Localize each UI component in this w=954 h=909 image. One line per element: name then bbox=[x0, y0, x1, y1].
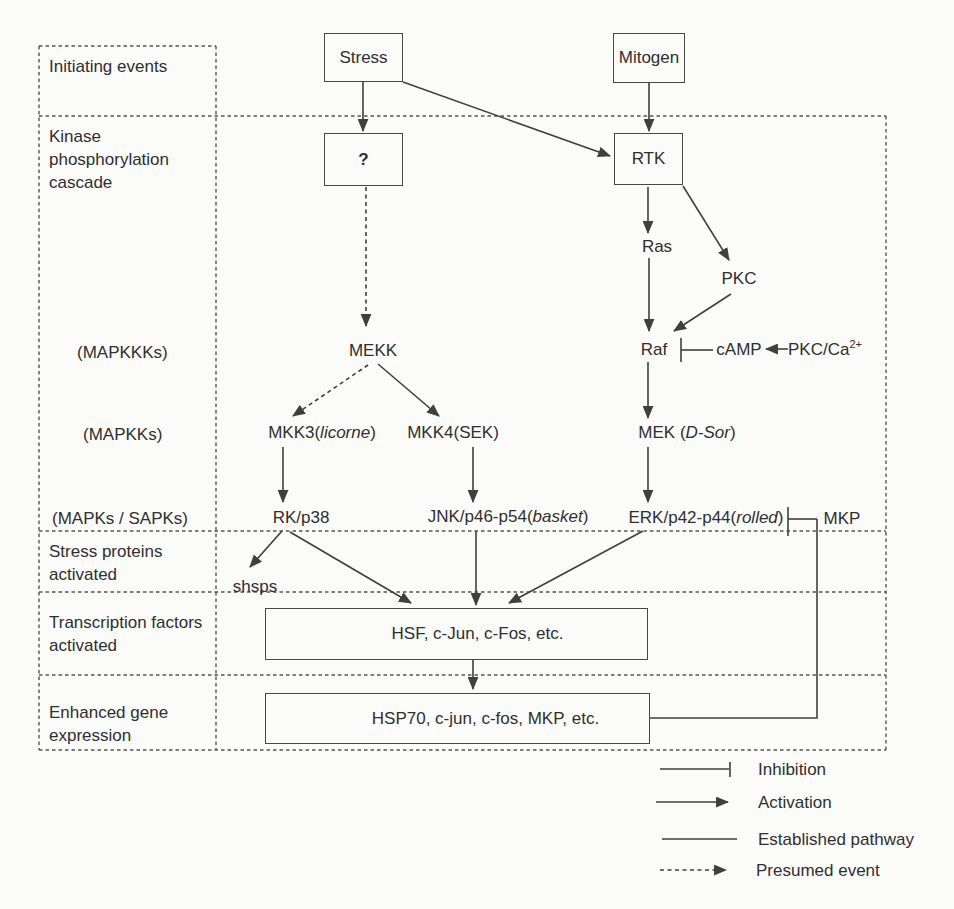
node-pkc-ca: PKC/Ca2+ bbox=[788, 338, 862, 361]
node-mkk4: MKK4(SEK) bbox=[407, 423, 499, 442]
presumed-arrows bbox=[293, 187, 368, 416]
arrow-mekk-to-mkk4 bbox=[378, 364, 439, 416]
row-label-kinase-cascade: Kinase phosphorylation cascade bbox=[49, 125, 199, 194]
mitogen-box: Mitogen bbox=[613, 33, 685, 83]
mek-suffix: ) bbox=[730, 423, 736, 442]
stress-label: Stress bbox=[339, 48, 387, 68]
node-rk-p38: RK/p38 bbox=[273, 508, 330, 527]
jnk-gene-italic: basket bbox=[533, 507, 583, 526]
row-label-mapkks: (MAPKKs) bbox=[83, 423, 162, 446]
arrow-rk-to-shsps bbox=[250, 531, 282, 567]
pkc-ca-base: PKC/Ca bbox=[788, 340, 849, 359]
inhibition-lines bbox=[649, 338, 817, 718]
node-ras: Ras bbox=[642, 237, 672, 256]
mkk3-gene-italic: licorne bbox=[320, 423, 370, 442]
mek-prefix: MEK ( bbox=[638, 423, 685, 442]
hsp70-box-label: HSP70, c-jun, c-fos, MKP, etc. bbox=[372, 709, 599, 729]
mitogen-label: Mitogen bbox=[619, 48, 679, 68]
node-mekk: MEKK bbox=[349, 341, 397, 360]
legend-label-activation: Activation bbox=[758, 793, 832, 813]
pkc-ca-superscript: 2+ bbox=[849, 338, 862, 350]
erk-gene-italic: rolled bbox=[736, 508, 778, 527]
arrow-pkc-to-raf bbox=[674, 294, 731, 331]
node-erk: ERK/p42-p44(rolled) bbox=[629, 508, 784, 527]
legend-label-established: Established pathway bbox=[758, 830, 914, 850]
mkk3-prefix: MKK3( bbox=[268, 423, 320, 442]
arrow-rtk-to-pkc bbox=[683, 186, 729, 260]
hsf-box: HSF, c-Jun, c-Fos, etc. bbox=[265, 608, 648, 660]
row-label-transcription-factors: Transcription factors activated bbox=[49, 611, 204, 657]
mek-gene-italic: D-Sor bbox=[686, 423, 730, 442]
legend-label-presumed: Presumed event bbox=[756, 861, 880, 881]
node-mek: MEK (D-Sor) bbox=[638, 423, 735, 442]
node-mkp: MKP bbox=[824, 509, 861, 528]
jnk-suffix: ) bbox=[583, 507, 589, 526]
erk-prefix: ERK/p42-p44( bbox=[629, 508, 737, 527]
rtk-box: RTK bbox=[614, 133, 683, 185]
hsf-box-label: HSF, c-Jun, c-Fos, etc. bbox=[392, 624, 564, 644]
unknown-kinase-label: ? bbox=[358, 150, 368, 170]
stress-box: Stress bbox=[324, 33, 403, 82]
rtk-label: RTK bbox=[632, 149, 666, 169]
dashed-arrow-mekk-to-mkk3 bbox=[293, 365, 368, 416]
row-label-mapks-sapks: (MAPKs / SAPKs) bbox=[52, 507, 188, 530]
node-mkk3: MKK3(licorne) bbox=[268, 423, 376, 442]
node-jnk: JNK/p46-p54(basket) bbox=[428, 507, 589, 526]
mkk3-suffix: ) bbox=[370, 423, 376, 442]
jnk-prefix: JNK/p46-p54( bbox=[428, 507, 533, 526]
row-label-mapkkks: (MAPKKKs) bbox=[77, 341, 168, 364]
node-camp: cAMP bbox=[716, 340, 761, 359]
hsp70-to-mkp-feedback-line bbox=[649, 519, 817, 718]
legend-samples bbox=[656, 762, 737, 870]
arrow-erk-to-hsf bbox=[509, 531, 643, 603]
row-label-enhanced-gene: Enhanced gene expression bbox=[49, 701, 194, 747]
legend-label-inhibition: Inhibition bbox=[758, 760, 826, 780]
row-label-initiating-events: Initiating events bbox=[49, 55, 167, 78]
node-shsps: shsps bbox=[233, 577, 277, 596]
hsp70-box: HSP70, c-jun, c-fos, MKP, etc. bbox=[265, 693, 650, 744]
node-raf: Raf bbox=[641, 340, 667, 359]
pathway-diagram: Initiating events Kinase phosphorylation… bbox=[0, 0, 954, 909]
erk-suffix: ) bbox=[778, 508, 784, 527]
unknown-kinase-box: ? bbox=[324, 133, 403, 186]
arrow-stress-to-rtk bbox=[403, 82, 610, 156]
node-pkc: PKC bbox=[722, 269, 757, 288]
row-label-stress-proteins: Stress proteins activated bbox=[49, 540, 179, 586]
